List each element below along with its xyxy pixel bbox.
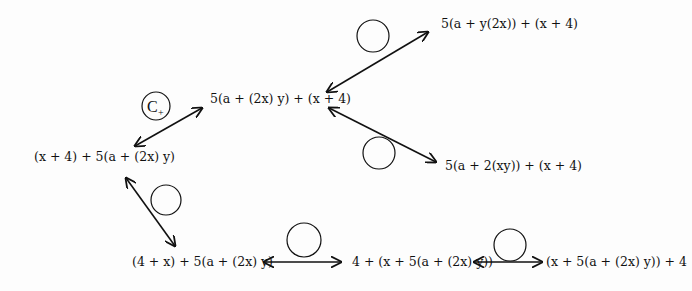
- edge-left-center: C +: [135, 92, 202, 146]
- expression-bottom-right: (x + 5(a + (2x) y)) + 4: [546, 256, 687, 269]
- expression-bottom-mid: 4 + (x + 5(a + (2x) y)): [352, 256, 493, 269]
- diagram-canvas: C +: [0, 0, 692, 291]
- equivalence-diagram: C + 5(a + (2x) y) + (x + 4) 5(a: [0, 0, 692, 291]
- rule-circle: [357, 20, 389, 52]
- rule-circle: [287, 223, 321, 257]
- edge-bottom-left-bottom-mid: [264, 223, 341, 262]
- edge-left-bottom-left: [126, 178, 181, 246]
- expression-top-right: 5(a + y(2x)) + (x + 4): [441, 18, 578, 31]
- rule-label-sub: +: [158, 107, 164, 118]
- edge-center-mid-right: [329, 108, 436, 169]
- expression-center: 5(a + (2x) y) + (x + 4): [210, 93, 351, 106]
- rule-circle: [494, 229, 526, 261]
- expression-bottom-left: (4 + x) + 5(a + (2x) y): [132, 256, 273, 269]
- expression-left: (x + 4) + 5(a + (2x) y): [34, 151, 175, 164]
- rule-label: C: [147, 98, 158, 115]
- edge-center-top-right: [327, 20, 428, 92]
- double-arrow: [327, 32, 428, 92]
- expression-mid-right: 5(a + 2(xy)) + (x + 4): [445, 160, 582, 173]
- rule-circle: [363, 137, 395, 169]
- double-arrow: [135, 108, 202, 146]
- double-arrow: [329, 108, 436, 162]
- rule-circle: [151, 185, 181, 215]
- double-arrow: [126, 178, 175, 246]
